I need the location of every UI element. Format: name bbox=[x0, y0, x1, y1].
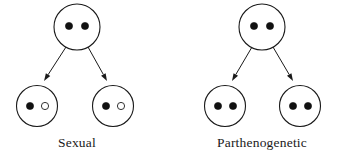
allele-dot-filled bbox=[266, 22, 273, 29]
cell-membrane-circle bbox=[280, 86, 321, 127]
cell-membrane-circle bbox=[93, 86, 134, 127]
arrow-head bbox=[232, 73, 238, 81]
arrow-head bbox=[101, 73, 107, 81]
offspring-cell-right bbox=[280, 86, 321, 127]
diagram-canvas: SexualParthenogenetic bbox=[0, 0, 344, 154]
allele-dot-filled bbox=[65, 22, 72, 29]
arrow-head bbox=[287, 73, 293, 81]
cell-membrane-circle bbox=[239, 4, 285, 50]
arrow-shaft bbox=[48, 47, 66, 75]
arrow-shaft bbox=[273, 47, 289, 75]
arrow-head bbox=[44, 73, 50, 81]
allele-dot-filled bbox=[304, 102, 311, 109]
allele-dot-filled bbox=[289, 102, 296, 109]
arrow-to-right-offspring bbox=[273, 47, 293, 81]
cell-membrane-circle bbox=[205, 86, 246, 127]
allele-dot-filled bbox=[214, 102, 221, 109]
cell-membrane-circle bbox=[17, 86, 58, 127]
allele-dot-filled bbox=[250, 22, 257, 29]
parent-cell bbox=[239, 4, 285, 50]
arrow-shaft bbox=[88, 47, 103, 74]
allele-dot-filled bbox=[81, 22, 88, 29]
arrow-shaft bbox=[236, 47, 252, 75]
allele-dot-filled bbox=[229, 102, 236, 109]
cell-membrane-circle bbox=[54, 4, 100, 50]
arrow-to-left-offspring bbox=[44, 47, 66, 81]
offspring-cell-left bbox=[205, 86, 246, 127]
caption-parthenogenetic: Parthenogenetic bbox=[217, 135, 307, 150]
arrow-to-left-offspring bbox=[232, 47, 252, 81]
allele-dot-hollow bbox=[117, 102, 124, 109]
group-sexual: Sexual bbox=[17, 4, 134, 150]
allele-dot-filled bbox=[26, 102, 33, 109]
allele-dot-filled bbox=[102, 102, 109, 109]
reproduction-mode-diagram: SexualParthenogenetic bbox=[0, 0, 344, 154]
group-parthenogenetic: Parthenogenetic bbox=[205, 4, 321, 150]
caption-sexual: Sexual bbox=[58, 135, 96, 150]
offspring-cell-left bbox=[17, 86, 58, 127]
arrow-to-right-offspring bbox=[88, 47, 107, 81]
parent-cell bbox=[54, 4, 100, 50]
allele-dot-hollow bbox=[41, 102, 48, 109]
offspring-cell-right bbox=[93, 86, 134, 127]
